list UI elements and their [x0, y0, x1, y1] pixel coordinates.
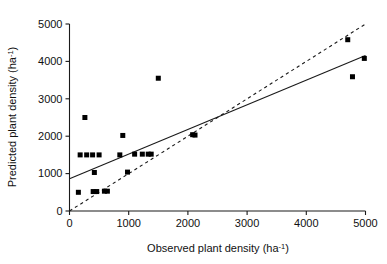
y-tick-label: 2000 [38, 130, 62, 142]
data-point-marker [92, 170, 97, 175]
x-axis-ticks: 010002000300040005000 [66, 211, 377, 229]
one-to-one-reference-line [70, 24, 366, 211]
data-point-marker [125, 170, 130, 175]
svg-text:Observed plant density (ha-1): Observed plant density (ha-1) [147, 242, 289, 255]
data-point-marker [78, 152, 83, 157]
svg-text:Predicted plant density (ha-1): Predicted plant density (ha-1) [6, 47, 19, 188]
y-tick-label: 0 [56, 205, 62, 217]
x-tick-label: 0 [66, 217, 72, 229]
x-tick-label: 3000 [235, 217, 259, 229]
y-tick-label: 1000 [38, 167, 62, 179]
data-point-marker [97, 152, 102, 157]
chart-canvas: 010002000300040005000 010002000300040005… [0, 0, 387, 264]
x-tick-label: 4000 [294, 217, 318, 229]
data-point-marker [193, 133, 198, 138]
y-axis-title: Predicted plant density (ha-1) [6, 47, 19, 188]
x-axis-title: Observed plant density (ha-1) [147, 242, 289, 255]
data-point-marker [76, 190, 81, 195]
data-point-marker [156, 76, 161, 81]
data-point-marker [132, 152, 137, 157]
trend-lines [70, 24, 366, 211]
x-tick-label: 5000 [353, 217, 377, 229]
data-point-marker [105, 189, 110, 194]
scatter-plot-figure: 010002000300040005000 010002000300040005… [0, 0, 387, 264]
data-point-marker [120, 133, 125, 138]
data-point-marker [362, 56, 367, 61]
data-point-marker [350, 74, 355, 79]
data-point-marker [345, 37, 350, 42]
y-tick-label: 4000 [38, 55, 62, 67]
y-axis-ticks: 010002000300040005000 [38, 18, 69, 217]
data-point-marker [117, 152, 122, 157]
data-point-marker [82, 115, 87, 120]
x-tick-label: 1000 [116, 217, 140, 229]
data-point-marker [140, 152, 145, 157]
y-tick-label: 3000 [38, 93, 62, 105]
data-point-marker [84, 152, 89, 157]
data-point-marker [94, 189, 99, 194]
data-point-marker [90, 152, 95, 157]
x-tick-label: 2000 [176, 217, 200, 229]
data-point-marker [149, 152, 154, 157]
y-tick-label: 5000 [38, 18, 62, 30]
